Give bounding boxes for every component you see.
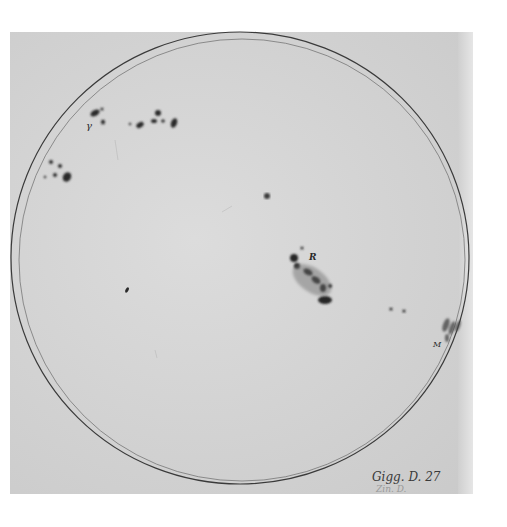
- catalog-faint-mark: Zin. D.: [376, 484, 406, 494]
- label-r: R: [309, 252, 316, 262]
- label-gamma: γ: [86, 120, 92, 131]
- paper-marks: [115, 140, 232, 358]
- sunspot-center-single: [264, 193, 270, 199]
- sunspot-small-left: [124, 287, 130, 294]
- solar-disk-drawing: [0, 0, 507, 527]
- sunspot-pair-right: [389, 307, 405, 312]
- sunspot-group-left: [44, 160, 73, 183]
- disk-outer-circle: [11, 32, 469, 484]
- catalog-number: Gigg. D. 27: [372, 470, 441, 484]
- sunspot-group-upper-middle: [129, 110, 179, 129]
- sunspot-group-limb: [441, 317, 462, 342]
- label-m: M: [433, 340, 441, 349]
- disk-inner-circle: [19, 39, 465, 481]
